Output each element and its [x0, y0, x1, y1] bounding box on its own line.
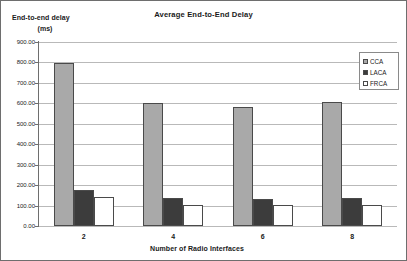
- x-axis-label: Number of Radio Interfaces: [1, 245, 393, 252]
- gridline: [39, 226, 397, 227]
- legend-item-cca: CCA: [363, 56, 398, 67]
- legend-item-frca: FRCA: [363, 78, 398, 89]
- x-tick-label: 2: [64, 233, 104, 240]
- bar-frca-8: [362, 205, 382, 226]
- y-tick-label: 700.00: [5, 80, 35, 86]
- legend-swatch-icon: [363, 59, 368, 64]
- bar-laca-4: [163, 198, 183, 226]
- bar-frca-2: [94, 197, 114, 226]
- y-axis-label-line1: End-to-end delay: [12, 14, 70, 21]
- chart-legend: CCALACAFRCA: [359, 52, 399, 90]
- y-tick-label: 300.00: [5, 162, 35, 168]
- legend-label: CCA: [370, 59, 383, 65]
- y-tick-label: 400.00: [5, 141, 35, 147]
- x-tick-label: 4: [153, 233, 193, 240]
- gridline: [39, 83, 397, 84]
- y-tick-label: 800.00: [5, 59, 35, 65]
- bar-laca-2: [74, 190, 94, 226]
- bar-cca-4: [143, 103, 163, 226]
- y-axis-label-line2: (ms): [12, 25, 78, 32]
- gridline: [39, 103, 397, 104]
- legend-item-laca: LACA: [363, 67, 398, 78]
- x-tick-label: 8: [332, 233, 372, 240]
- legend-label: LACA: [370, 70, 386, 76]
- chart-figure: Average End-to-End Delay End-to-end dela…: [0, 0, 407, 261]
- bar-cca-6: [233, 107, 253, 226]
- bar-cca-8: [322, 102, 342, 226]
- y-axis-tick-labels: 0.00100.00200.00300.00400.00500.00600.00…: [1, 42, 35, 226]
- legend-label: FRCA: [370, 81, 387, 87]
- legend-swatch-icon: [363, 81, 368, 86]
- gridline: [39, 185, 397, 186]
- y-tick-label: 200.00: [5, 182, 35, 188]
- gridline: [39, 144, 397, 145]
- bar-laca-8: [342, 198, 362, 226]
- gridline: [39, 124, 397, 125]
- y-tick-label: 600.00: [5, 100, 35, 106]
- gridline: [39, 165, 397, 166]
- plot-area: [39, 42, 397, 226]
- y-tick-label: 900.00: [5, 39, 35, 45]
- x-tick-label: 6: [243, 233, 283, 240]
- gridline: [39, 42, 397, 43]
- y-tick-label: 500.00: [5, 121, 35, 127]
- legend-swatch-icon: [363, 70, 368, 75]
- y-tick-label: 0.00: [5, 223, 35, 229]
- bar-frca-4: [183, 205, 203, 226]
- gridline: [39, 62, 397, 63]
- bar-laca-6: [253, 199, 273, 226]
- y-tick-label: 100.00: [5, 203, 35, 209]
- bar-cca-2: [54, 63, 74, 226]
- bar-frca-6: [273, 205, 293, 226]
